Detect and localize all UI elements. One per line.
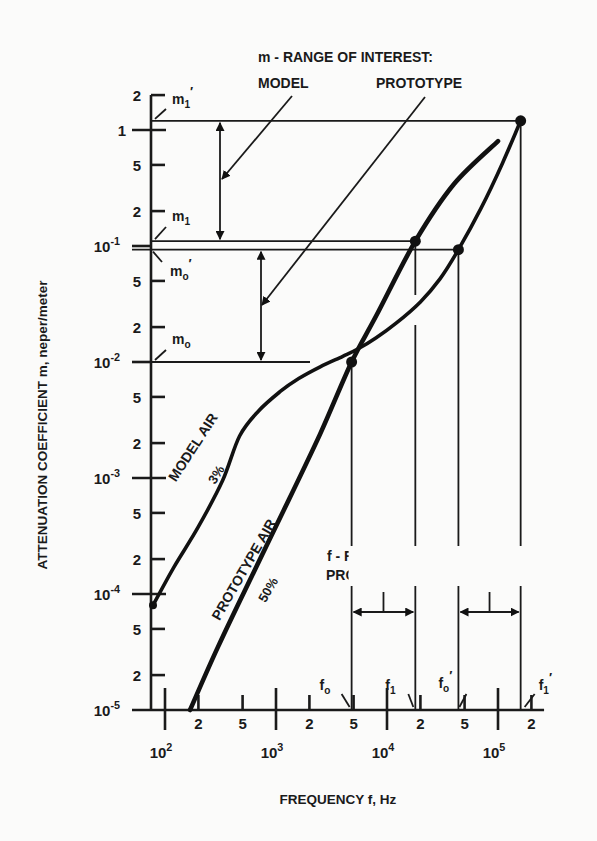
y-tick-label: 5: [133, 621, 141, 638]
y-tick-label: 10-5: [94, 699, 120, 719]
x-tick-label: 105: [483, 741, 506, 761]
y-tick-label: 2: [133, 87, 141, 104]
m0-prime-label-leader: [153, 252, 162, 262]
m0-label-leader: [155, 350, 166, 360]
x-tick-label: 2: [527, 715, 535, 732]
f1-label-leader: [408, 694, 413, 707]
m1-label-leader: [155, 227, 166, 239]
prototype-air-label: PROTOTYPE AIR: [208, 516, 279, 622]
attenuation-chart: ATTENUATION COEFFICIENT m, neper/meter F…: [0, 0, 597, 841]
x-tick-label: 102: [150, 741, 173, 761]
y-tick-label: 10-4: [94, 583, 120, 603]
model-air-curve: [153, 121, 521, 605]
dot-model-start: [149, 601, 157, 609]
y-tick-label: 2: [133, 319, 141, 336]
dot-model-m1-prime: [515, 115, 526, 126]
f0-prime-label: fo′: [438, 668, 452, 694]
m-range-prototype-leader: [262, 97, 425, 305]
m-range-model-leader: [222, 96, 292, 179]
x-tick-label: 5: [460, 715, 468, 732]
m1-label: m1: [172, 208, 190, 227]
m-range-title: m - RANGE OF INTEREST:: [258, 49, 433, 65]
m0-label: mo: [172, 331, 191, 350]
axes: 110-110-210-310-410-52525252525210210310…: [94, 87, 544, 761]
prototype-air-percent-label: 50%: [255, 574, 281, 604]
x-axis-label: FREQUENCY f, Hz: [280, 792, 397, 807]
series-labels: m1′m1mo′mofof1fo′f1′MODEL AIR3%PROTOTYPE…: [153, 84, 552, 707]
y-tick-label: 10-1: [94, 235, 120, 255]
x-tick-label: 2: [194, 715, 202, 732]
y-tick-label: 10-2: [94, 351, 120, 371]
x-tick-label: 5: [238, 715, 246, 732]
y-tick-label: 2: [133, 667, 141, 684]
y-tick-label: 1: [118, 122, 126, 139]
x-tick-label: 2: [305, 715, 313, 732]
y-tick-label: 10-3: [94, 467, 120, 487]
f-range-label-gap: [349, 546, 524, 586]
f0-label-leader: [342, 694, 350, 707]
dot-prototype-m1: [410, 236, 421, 247]
model-air-percent-label: 3%: [205, 462, 228, 486]
y-tick-label: 2: [133, 203, 141, 220]
reference-lines: [132, 96, 524, 710]
m-range-model-label: MODEL: [258, 75, 309, 91]
f1-prime-label-leader: [525, 694, 535, 707]
prototype-air-curve: [190, 141, 498, 710]
y-tick-label: 2: [133, 551, 141, 568]
m0-prime-label: mo′: [170, 256, 192, 282]
x-tick-label: 5: [349, 715, 357, 732]
y-tick-label: 5: [133, 273, 141, 290]
dot-prototype-m0: [346, 357, 357, 368]
m-range-prototype-label: PROTOTYPE: [376, 75, 462, 91]
y-tick-label: 5: [133, 389, 141, 406]
f1-prime-label: f1′: [539, 670, 552, 696]
m1-prime-label-leader: [155, 109, 166, 119]
y-tick-label: 2: [133, 435, 141, 452]
x-tick-label: 2: [416, 715, 424, 732]
y-tick-label: 5: [133, 157, 141, 174]
m1-prime-label: m1′: [172, 84, 193, 110]
x-tick-label: 103: [261, 741, 284, 761]
y-tick-label: 5: [133, 505, 141, 522]
f0-label: fo: [320, 677, 331, 696]
x-tick-label: 104: [372, 741, 395, 761]
y-axis-label: ATTENUATION COEFFICIENT m, neper/meter: [35, 280, 50, 570]
dot-model-m0-prime: [453, 244, 464, 255]
